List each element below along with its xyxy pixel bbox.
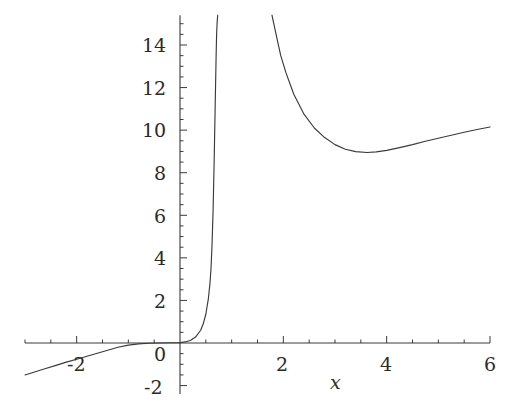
y-tick-label-14: 14 (142, 36, 166, 55)
y-tick-label-neg2: -2 (144, 378, 163, 397)
curve-branch-left (25, 15, 218, 375)
y-tick-label-8: 8 (154, 164, 166, 183)
y-tick-label-4: 4 (154, 249, 166, 268)
y-tick-label-6: 6 (154, 207, 166, 226)
figure: 14 12 10 8 6 4 2 0 -2 -2 2 4 6 x (0, 0, 519, 417)
curve-group (25, 15, 490, 375)
x-tick-label-2: 2 (276, 355, 288, 374)
axes-group (25, 15, 490, 394)
x-tick-label-6: 6 (484, 355, 496, 374)
curve-branch-right (272, 15, 490, 152)
x-tick-label-4: 4 (380, 355, 392, 374)
y-tick-label-10: 10 (142, 121, 166, 140)
y-tick-label-12: 12 (142, 79, 166, 98)
x-tick-label-neg2: -2 (67, 355, 86, 374)
x-axis-label: x (330, 373, 341, 392)
y-tick-label-2: 2 (154, 292, 166, 311)
y-tick-label-0: 0 (154, 345, 166, 364)
